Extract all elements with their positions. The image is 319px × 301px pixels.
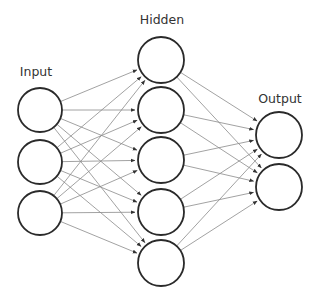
edge-input2-to-hidden3 bbox=[62, 160, 135, 161]
edge-hidden4-to-output2 bbox=[184, 192, 254, 207]
input-node-1 bbox=[18, 88, 62, 132]
edge-hidden3-to-output2 bbox=[183, 165, 253, 181]
hidden-layer-label: Hidden bbox=[140, 12, 184, 27]
edge-input3-to-hidden5 bbox=[60, 221, 137, 253]
edge-hidden5-to-output2 bbox=[180, 201, 257, 250]
edge-input1-to-hidden3 bbox=[60, 118, 137, 150]
hidden-node-5 bbox=[138, 240, 184, 286]
output-node-2 bbox=[256, 164, 302, 210]
input-node-2 bbox=[18, 140, 62, 184]
input-node-3 bbox=[18, 191, 62, 235]
edge-input3-to-hidden1 bbox=[54, 80, 145, 195]
neural-network-diagram: Input Hidden Output bbox=[0, 0, 319, 301]
output-node-1 bbox=[256, 112, 302, 158]
nodes bbox=[18, 37, 302, 286]
output-layer-label: Output bbox=[258, 91, 302, 106]
edge-hidden2-to-output1 bbox=[184, 115, 254, 130]
hidden-node-4 bbox=[138, 189, 184, 235]
edge-input3-to-hidden4 bbox=[62, 212, 135, 213]
hidden-node-1 bbox=[138, 37, 184, 83]
hidden-node-2 bbox=[138, 87, 184, 133]
edge-hidden5-to-output1 bbox=[177, 154, 262, 246]
edge-input1-to-hidden1 bbox=[60, 70, 137, 102]
hidden-node-3 bbox=[138, 137, 184, 183]
input-layer-label: Input bbox=[20, 64, 52, 79]
edge-hidden1-to-output1 bbox=[180, 72, 257, 121]
edge-hidden4-to-output1 bbox=[180, 149, 257, 199]
